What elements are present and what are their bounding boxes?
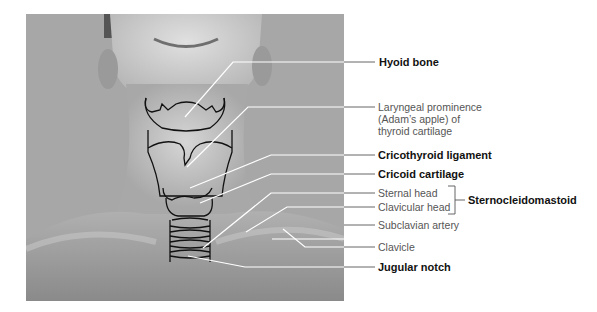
annotation-overlay	[0, 0, 597, 312]
leader-lines-outside	[344, 62, 465, 267]
label-cricothyroid-ligament: Cricothyroid ligament	[378, 149, 492, 161]
label-line: thyroid cartilage	[378, 125, 482, 137]
label-clavicle: Clavicle	[378, 241, 415, 253]
label-hyoid-bone: Hyoid bone	[379, 56, 439, 68]
label-sternal-head: Sternal head	[378, 187, 438, 199]
label-line: (Adam’s apple) of	[378, 113, 482, 125]
label-cricoid-cartilage: Cricoid cartilage	[378, 168, 464, 180]
label-laryngeal-prominence: Laryngeal prominence (Adam’s apple) of t…	[378, 101, 482, 137]
label-jugular-notch: Jugular notch	[378, 261, 451, 273]
label-clavicular-head: Clavicular head	[378, 201, 450, 213]
label-line: Laryngeal prominence	[378, 101, 482, 113]
label-subclavian-artery: Subclavian artery	[378, 219, 459, 231]
label-sternocleidomastoid: Sternocleidomastoid	[468, 194, 577, 206]
larynx-drawing	[145, 98, 232, 262]
